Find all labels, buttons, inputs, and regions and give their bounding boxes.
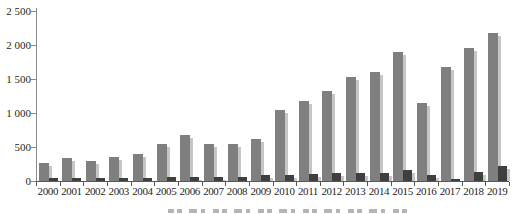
- bar-series-1-2013: [346, 77, 356, 181]
- y-tick-label: 500: [0, 142, 31, 153]
- y-tick-label: 0: [0, 176, 31, 187]
- y-tick-label: 2 500: [0, 6, 31, 17]
- y-tick-label: 1 000: [0, 108, 31, 119]
- bar-series-1-2003: [109, 157, 119, 181]
- y-axis-tick: [31, 79, 36, 80]
- bar-series-1-2019: [488, 33, 498, 181]
- bar-series-1-2001: [62, 158, 72, 181]
- y-tick-label: 1 500: [0, 74, 31, 85]
- bar-series-2-2014: [380, 173, 389, 181]
- bar-series-1-2012: [322, 91, 332, 181]
- cropped-caption-fragment: [168, 209, 408, 213]
- y-axis-tick: [31, 147, 36, 148]
- bar-series-1-2017: [441, 67, 451, 181]
- bar-series-2-2011: [309, 174, 318, 181]
- bar-series-1-2007: [204, 144, 214, 181]
- bar-series-1-2018: [464, 48, 474, 181]
- bar-series-1-2010: [275, 110, 285, 181]
- bar-series-2-2013: [356, 173, 365, 181]
- bar-series-1-2002: [86, 161, 96, 181]
- y-axis-tick: [31, 113, 36, 114]
- bar-series-2-2018: [474, 172, 483, 181]
- x-axis-line: [36, 181, 509, 182]
- bar-series-2-2012: [332, 173, 341, 182]
- bar-series-1-2006: [180, 135, 190, 181]
- bar-series-1-2008: [228, 144, 238, 181]
- bar-series-1-2011: [299, 101, 309, 181]
- bar-series-1-2000: [39, 163, 49, 181]
- y-axis-tick: [31, 45, 36, 46]
- y-tick-label: 2 000: [0, 40, 31, 51]
- bar-series-2-2015: [403, 170, 412, 181]
- bar-series-1-2015: [393, 52, 403, 181]
- bar-chart: 2 5002 0001 5001 00050002000200120022003…: [0, 0, 517, 214]
- bar-series-1-2016: [417, 103, 427, 181]
- bar-series-1-2014: [370, 72, 380, 181]
- y-axis-tick: [31, 11, 36, 12]
- bar-series-1-2004: [133, 154, 143, 181]
- x-tick-label: 2019: [482, 186, 512, 197]
- y-axis-line: [36, 8, 37, 184]
- bar-series-1-2005: [157, 144, 167, 181]
- bar-series-1-2009: [251, 139, 261, 181]
- bar-series-2-2019: [498, 166, 507, 181]
